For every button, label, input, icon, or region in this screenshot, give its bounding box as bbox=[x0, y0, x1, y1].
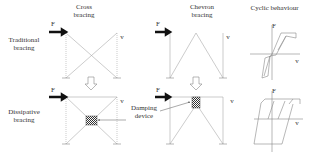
cyclic-plot-dissipative bbox=[254, 91, 303, 152]
cyclic-plot-traditional bbox=[250, 25, 300, 80]
force-arrow-icon bbox=[155, 95, 170, 100]
force-arrow-icon bbox=[49, 30, 66, 35]
force-arrow-icon bbox=[155, 30, 170, 35]
down-arrow-icon bbox=[85, 77, 97, 90]
frame-traditional-chevron bbox=[170, 33, 223, 78]
diagram-canvas bbox=[0, 0, 309, 153]
force-arrow-icon bbox=[49, 95, 66, 100]
damping-device-chevron bbox=[192, 97, 200, 108]
damping-pointer-right bbox=[160, 102, 190, 111]
frame-traditional-cross bbox=[66, 33, 117, 78]
down-arrow-icon bbox=[190, 77, 202, 90]
damping-device-cross bbox=[86, 116, 97, 125]
